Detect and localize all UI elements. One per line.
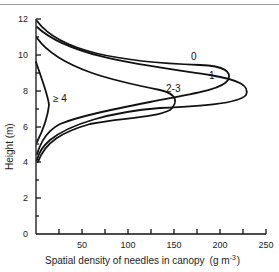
- x-axis-title: Spatial density of needles in canopy(g m…: [45, 254, 240, 266]
- x-tick-150: 150: [166, 240, 181, 250]
- y-tick-2: 2: [23, 193, 28, 203]
- curve-2-3-label: 2-3: [166, 83, 181, 94]
- x-tick-250: 250: [258, 240, 273, 250]
- y-tick-0: 0: [23, 229, 28, 239]
- axes: [36, 19, 266, 234]
- density-height-chart: 0 2 4 6 8 10 12 50 100 150 200 250 Heigh…: [0, 0, 279, 272]
- y-tick-8: 8: [23, 86, 28, 96]
- curve-0: [37, 21, 229, 154]
- y-tick-4: 4: [23, 157, 28, 167]
- curve-1-label: 1: [209, 70, 215, 81]
- curve-4-plus-label: ≥ 4: [53, 93, 67, 104]
- x-tick-100: 100: [120, 240, 135, 250]
- x-tick-200: 200: [212, 240, 227, 250]
- y-tick-10: 10: [18, 50, 28, 60]
- y-tick-labels: 0 2 4 6 8 10 12: [18, 14, 28, 239]
- curve-4-plus: [36, 62, 49, 142]
- x-tick-labels: 50 100 150 200 250: [77, 240, 274, 250]
- x-tick-50: 50: [77, 240, 87, 250]
- y-axis-title: Height (m): [4, 123, 15, 170]
- curve-1: [37, 27, 247, 160]
- y-tick-6: 6: [23, 122, 28, 132]
- curve-0-label: 0: [191, 51, 197, 62]
- y-tick-12: 12: [18, 14, 28, 24]
